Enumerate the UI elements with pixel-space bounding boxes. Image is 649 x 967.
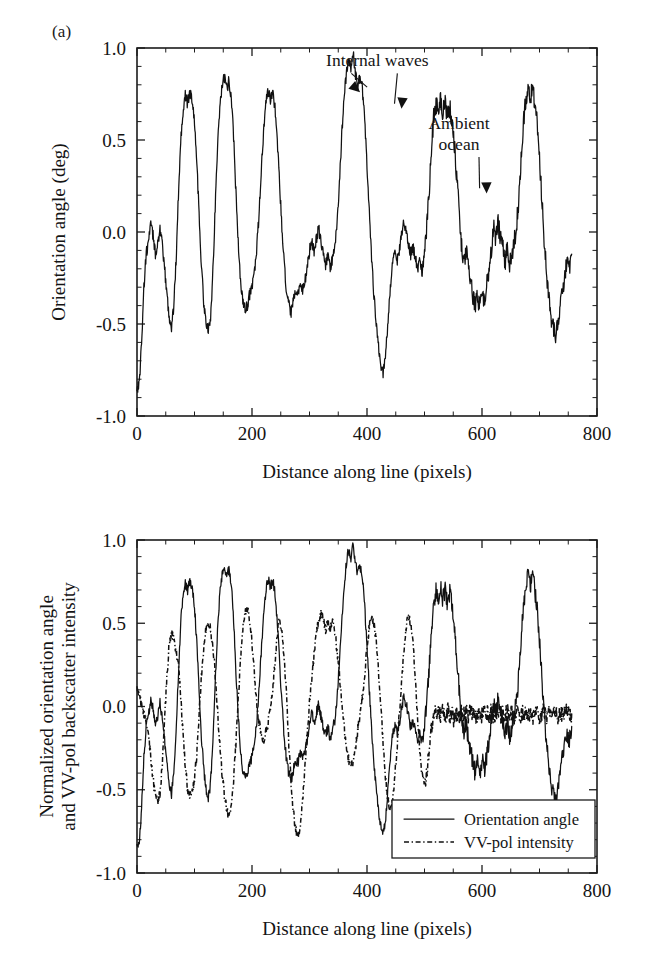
panel-a-ytick-label: 0.0: [102, 222, 126, 243]
panel-b-ytick-label: -1.0: [96, 863, 126, 884]
panel-b-legend-label: VV-pol intensity: [464, 833, 575, 852]
panel-b-xtick-label: 200: [238, 880, 267, 901]
panel-a-ylabel: Orientation angle (deg): [48, 143, 70, 320]
panel-a-xlabel: Distance along line (pixels): [262, 461, 471, 483]
panel-a-annotation-leader: [395, 73, 398, 103]
panel-b-ytick-label: 0.0: [102, 696, 126, 717]
figure-container: (a) (b) 0200400600800-1.0-0.50.00.51.0Di…: [0, 0, 649, 967]
panel-b-xtick-label: 0: [132, 880, 142, 901]
panel-a-xtick-label: 800: [583, 423, 612, 444]
panel-a-xtick-label: 200: [238, 423, 267, 444]
panel-a-ytick-label: -0.5: [96, 314, 126, 335]
panel-a-annotation-arrowhead: [481, 182, 491, 193]
panel-b-xtick-label: 400: [353, 880, 382, 901]
panel-b-ylabel-line1: Normalized orientation angle: [36, 595, 57, 818]
panel-b-xtick-label: 600: [468, 880, 497, 901]
panel-a-ytick-label: 1.0: [102, 38, 126, 59]
panel-a-annotation-text: ocean: [439, 134, 480, 154]
panel-b-ylabel-line2: and VV-pol backscatter intensity: [58, 582, 79, 831]
panel-a-xtick-label: 400: [353, 423, 382, 444]
panel-b-group: 0200400600800-1.0-0.50.00.51.0Distance a…: [36, 530, 611, 941]
panel-a-xtick-label: 0: [132, 423, 142, 444]
plot-canvas: 0200400600800-1.0-0.50.00.51.0Distance a…: [0, 0, 649, 967]
panel-b-ytick-label: 0.5: [102, 613, 126, 634]
panel-a-ytick-label: -1.0: [96, 406, 126, 427]
panel-b-ytick-label: -0.5: [96, 779, 126, 800]
panel-b-ytick-label: 1.0: [102, 530, 126, 551]
panel-a-annotation-leader: [479, 157, 480, 188]
panel-a-annotation-arrowhead: [397, 97, 407, 108]
panel-a-annotation-text: Internal waves: [326, 50, 429, 70]
panel-b-xlabel: Distance along line (pixels): [262, 918, 471, 940]
panel-b-xtick-label: 800: [583, 880, 612, 901]
panel-a-axes-frame: [137, 48, 597, 416]
panel-a-xtick-label: 600: [468, 423, 497, 444]
panel-a-group: 0200400600800-1.0-0.50.00.51.0Distance a…: [48, 38, 611, 484]
panel-a-series-orientation-angle: [137, 52, 572, 392]
panel-a-ytick-label: 0.5: [102, 130, 126, 151]
panel-b-legend-label: Orientation angle: [464, 810, 579, 829]
panel-a-annotation-text: Ambient: [428, 113, 489, 133]
